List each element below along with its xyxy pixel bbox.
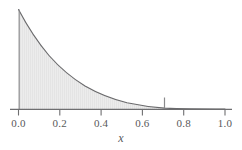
x-axis-label: x [118,131,123,146]
x-axis-ticks [19,109,226,115]
exponential-density-figure: 0.0 0.2 0.4 0.6 0.8 1.0 x [0,0,242,150]
x-tick-label-4: 0.8 [177,117,191,129]
plot-canvas [0,0,242,150]
x-tick-label-2: 0.4 [94,117,108,129]
shaded-area [19,10,165,110]
x-tick-label-3: 0.6 [135,117,149,129]
x-tick-label-1: 0.2 [53,117,67,129]
x-tick-label-0: 0.0 [11,117,25,129]
x-tick-label-5: 1.0 [218,117,232,129]
